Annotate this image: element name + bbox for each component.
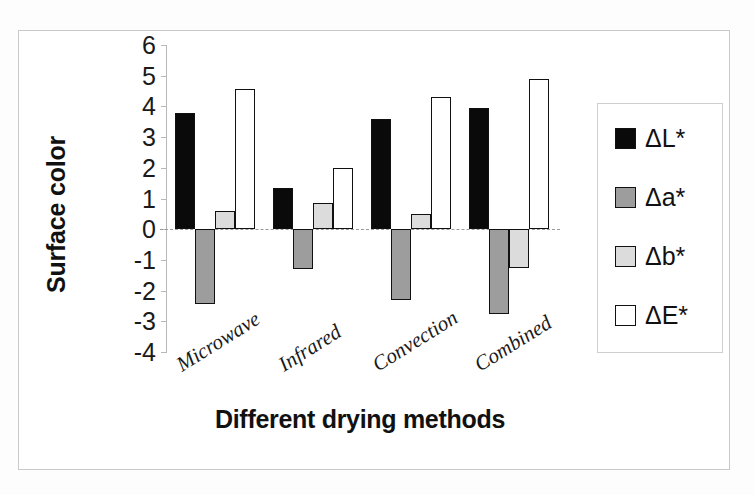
legend-label: Δa*: [645, 185, 685, 210]
legend-label: ΔE*: [645, 303, 688, 328]
y-tick-mark: [161, 137, 167, 138]
bar: [293, 229, 313, 269]
bar: [175, 113, 195, 230]
bar: [313, 203, 333, 229]
y-tick-label: 1: [142, 186, 156, 211]
legend-item[interactable]: ΔL*: [615, 126, 685, 151]
y-tick-mark: [161, 168, 167, 169]
y-tick-label: 2: [142, 155, 156, 180]
y-axis-title: Surface color: [42, 115, 71, 315]
y-tick-label: -3: [134, 309, 156, 334]
y-tick-label: 4: [142, 94, 156, 119]
bar-group: [175, 45, 255, 352]
y-tick-label: -1: [134, 247, 156, 272]
bar: [509, 229, 529, 267]
figure-canvas: Surface color Different drying methods 6…: [0, 0, 754, 495]
bar-group: [371, 45, 451, 352]
bar: [489, 229, 509, 313]
bar: [215, 211, 235, 229]
legend-swatch-icon: [615, 305, 636, 326]
bar: [235, 89, 255, 230]
bar: [431, 97, 451, 229]
bar: [469, 108, 489, 229]
y-tick-mark: [161, 199, 167, 200]
x-axis-title: Different drying methods: [150, 405, 570, 434]
bar: [195, 229, 215, 304]
y-tick-label: 6: [142, 33, 156, 58]
legend-swatch-icon: [615, 187, 636, 208]
y-tick-mark: [161, 76, 167, 77]
bar-group: [469, 45, 549, 352]
legend-item[interactable]: Δb*: [615, 244, 685, 269]
bar: [273, 188, 293, 229]
y-tick-label: -2: [134, 278, 156, 303]
y-tick-label: 5: [142, 63, 156, 88]
plot-area: 6543210-1-2-3-4: [168, 45, 560, 352]
legend: ΔL*Δa*Δb*ΔE*: [597, 103, 723, 353]
bar: [391, 229, 411, 300]
legend-swatch-icon: [615, 246, 636, 267]
y-tick-mark: [161, 260, 167, 261]
bar: [411, 214, 431, 229]
legend-label: ΔL*: [645, 126, 685, 151]
bar: [371, 119, 391, 230]
y-tick-label: -4: [134, 340, 156, 365]
legend-item[interactable]: Δa*: [615, 185, 685, 210]
bar: [333, 168, 353, 229]
legend-item[interactable]: ΔE*: [615, 303, 688, 328]
bar-group: [273, 45, 353, 352]
legend-swatch-icon: [615, 128, 636, 149]
y-tick-label: 3: [142, 125, 156, 150]
y-tick-mark: [161, 45, 167, 46]
y-tick-label: 0: [142, 217, 156, 242]
y-tick-mark: [161, 321, 167, 322]
y-tick-mark: [161, 291, 167, 292]
y-tick-mark: [161, 352, 167, 353]
legend-label: Δb*: [645, 244, 685, 269]
y-tick-mark: [161, 106, 167, 107]
bar: [529, 79, 549, 229]
